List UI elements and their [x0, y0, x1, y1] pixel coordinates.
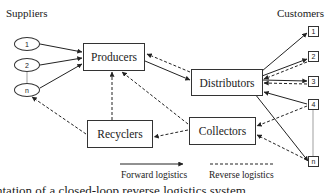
recyclers-node: Recyclers: [87, 120, 153, 148]
customer-label: 2: [312, 53, 316, 60]
customer-label: 4: [312, 101, 316, 108]
supplier-label: n: [25, 87, 29, 94]
customer-node-4: 4: [308, 99, 319, 110]
recyclers-label: Recyclers: [97, 128, 142, 140]
supplier-node-n: n: [14, 83, 40, 97]
collectors-label: Collectors: [199, 125, 246, 137]
producers-label: Producers: [91, 51, 137, 63]
figure-caption: ntation of a closed-loop reverse logisti…: [0, 183, 246, 193]
distributors-node: Distributors: [191, 69, 263, 96]
legend-reverse-label: Reverse logistics: [209, 170, 274, 180]
collectors-node: Collectors: [189, 117, 256, 145]
suppliers-label: Suppliers: [6, 7, 48, 19]
customer-label: n: [312, 158, 316, 165]
distributors-label: Distributors: [200, 77, 255, 89]
customer-node-3: 3: [308, 76, 319, 87]
supplier-node-2: 2: [14, 58, 40, 72]
edges-layer: [0, 0, 330, 193]
supplier-label: 1: [25, 41, 29, 48]
customer-label: 1: [312, 28, 316, 35]
supplier-label: 2: [25, 62, 29, 69]
legend-forward-label: Forward logistics: [121, 170, 187, 180]
customer-node-2: 2: [308, 51, 319, 62]
customer-node-1: 1: [308, 26, 319, 37]
supplier-node-1: 1: [14, 37, 40, 51]
producers-node: Producers: [83, 43, 145, 71]
customers-label: Customers: [277, 7, 324, 19]
customer-label: 3: [312, 78, 316, 85]
customer-node-n: n: [308, 156, 319, 167]
